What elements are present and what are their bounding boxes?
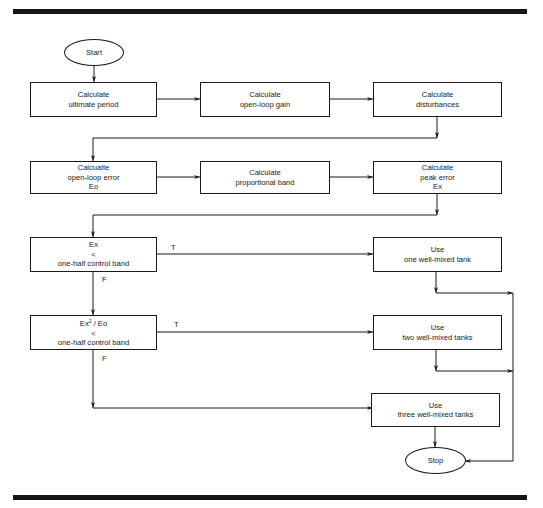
- box-text: ultimate period: [69, 100, 119, 110]
- stop-terminal: Stop: [405, 447, 466, 474]
- stop-label: Stop: [428, 456, 444, 465]
- decision2-true-label: T: [174, 320, 179, 329]
- decision1-false-label: F: [102, 275, 107, 284]
- box-text: open-loop error: [68, 173, 120, 183]
- box-text: three well-mixed tanks: [398, 410, 474, 420]
- box-text: disturbances: [416, 100, 459, 110]
- box-text: Calculate: [249, 90, 281, 100]
- use-three-tanks-box: Use three well-mixed tanks: [371, 393, 500, 427]
- box-text: Calculate: [249, 168, 281, 178]
- box-text: proportional band: [235, 178, 294, 188]
- box-text: Use: [431, 245, 445, 255]
- box-text: <: [91, 250, 95, 260]
- box-text: Use: [429, 401, 443, 411]
- box-text: Calculate: [422, 90, 454, 100]
- box-text: Calcualte: [78, 163, 110, 173]
- box-text: Ex: [433, 182, 442, 192]
- decision-ex2-eo-box: Ex2 / Eo < one-half control band: [30, 315, 157, 350]
- use-two-tanks-box: Use two well-mixed tanks: [373, 315, 502, 350]
- box-text: peak error: [420, 173, 455, 183]
- decision-ex-box: Ex < one-half control band: [30, 237, 157, 272]
- calc-ultimate-period-box: Calculate ultimate period: [30, 82, 157, 117]
- box-text: Use: [431, 323, 445, 333]
- box-text: Calculate: [422, 163, 454, 173]
- box-text: Eo: [89, 182, 98, 192]
- box-text: Calculate: [78, 90, 110, 100]
- calc-open-loop-gain-box: Calculate open-loop gain: [200, 82, 330, 117]
- use-one-tank-box: Use one well-mixed tank: [373, 237, 502, 272]
- box-text: two well-mixed tanks: [402, 333, 472, 343]
- calc-open-loop-error-box: Calcualte open-loop error Eo: [30, 161, 157, 194]
- box-text: one well-mixed tank: [404, 255, 471, 265]
- box-text: Ex2 / Eo: [80, 317, 107, 329]
- calc-proportional-band-box: Calculate proportional band: [200, 161, 330, 194]
- decision1-true-label: T: [171, 243, 176, 252]
- box-text: open-loop gain: [240, 100, 290, 110]
- calc-peak-error-box: Calculate peak error Ex: [373, 161, 502, 194]
- start-terminal: Start: [64, 39, 124, 66]
- box-text: one-half control band: [58, 338, 129, 348]
- box-text: one-half control band: [58, 259, 129, 269]
- decision2-false-label: F: [102, 354, 107, 363]
- start-label: Start: [86, 48, 102, 57]
- calc-disturbances-box: Calculate disturbances: [373, 82, 502, 117]
- box-text: Ex: [89, 240, 98, 250]
- box-text: <: [91, 329, 95, 339]
